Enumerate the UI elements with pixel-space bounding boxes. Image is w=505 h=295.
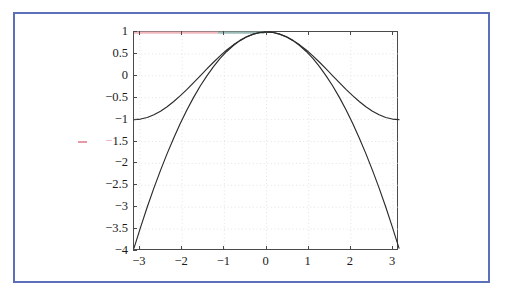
y-tick-label: −1 [87,113,128,126]
plot-axes-box [133,31,398,250]
x-tickmark-top [139,31,140,35]
y-tickmark [133,162,137,163]
x-tick-label: −1 [208,255,238,268]
x-tick-label: −2 [166,255,196,268]
x-tickmark [139,246,140,250]
x-tickmark [392,246,393,250]
y-tick-label: 0 [87,69,128,82]
y-tick-label: −2 [87,156,128,169]
y-tick-label: −4 [87,244,128,257]
y-tickmark [133,53,137,54]
y-tick-label: −2.5 [87,178,128,191]
figure-canvas: 10.50−0.5−1−1.5−2−2.5−3−3.5−4 −3−2−10123 [0,0,505,295]
x-tickmark [308,246,309,250]
x-tickmark-top [392,31,393,35]
x-tick-label: 3 [377,255,407,268]
x-tickmark [266,246,267,250]
y-tick-label: −0.5 [87,91,128,104]
y-tickmark [133,119,137,120]
x-tickmark [350,246,351,250]
y-tickmark [133,97,137,98]
x-tickmark-top [308,31,309,35]
y-tick-label: 1 [87,25,128,38]
x-tickmark [223,246,224,250]
y-tick-label: −3.5 [87,222,128,235]
x-tick-label: 2 [335,255,365,268]
x-tickmark-top [223,31,224,35]
curve-layer [134,32,399,251]
x-tickmark-top [181,31,182,35]
x-tick-label: 1 [293,255,323,268]
x-tick-label: −3 [124,255,154,268]
pink-dash-marker [78,141,87,143]
y-tickmark [133,184,137,185]
y-tickmark [133,250,137,251]
y-tickmark [133,206,137,207]
x-tick-label: 0 [251,255,281,268]
y-tick-label: 0.5 [87,47,128,60]
y-tickmark [133,141,137,142]
x-tickmark-top [266,31,267,35]
y-tick-label: −1.5 [87,135,128,148]
x-tickmark [181,246,182,250]
y-tickmark [133,228,137,229]
y-tick-label: −3 [87,200,128,213]
y-tickmark [133,75,137,76]
y-tickmark [133,31,137,32]
x-tickmark-top [350,31,351,35]
